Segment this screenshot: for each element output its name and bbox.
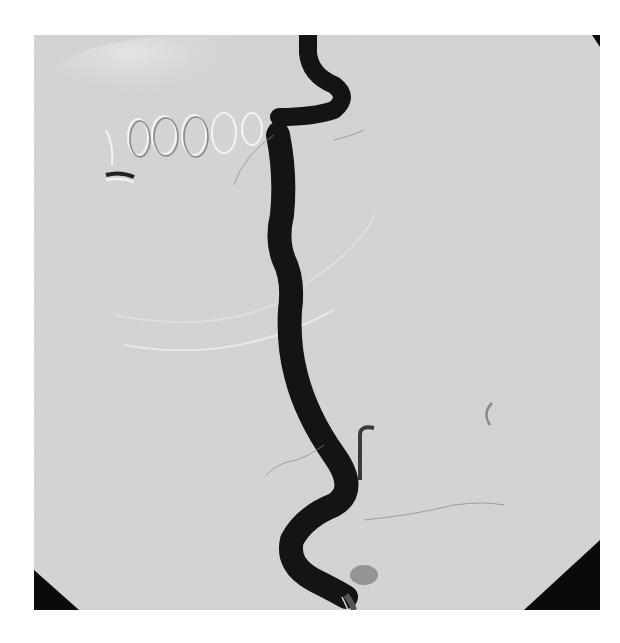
angiogram-image (34, 35, 600, 610)
